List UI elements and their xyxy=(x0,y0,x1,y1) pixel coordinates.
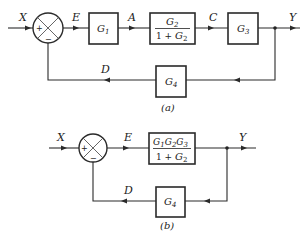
signal-d-label: D xyxy=(123,184,133,197)
plus-sign: + xyxy=(81,144,88,153)
diagram-b: X + − E G1G2G3 1 + G2 Y G4 D (b) xyxy=(49,131,256,231)
summing-junction-b: + − xyxy=(79,134,107,163)
signal-y-label: Y xyxy=(289,11,298,24)
signal-e-label: E xyxy=(123,131,132,144)
arrow-icon xyxy=(208,26,214,31)
arrow-icon xyxy=(123,146,129,151)
arrow-icon xyxy=(290,26,296,31)
arrow-icon xyxy=(25,26,31,31)
caption-b: (b) xyxy=(160,220,174,231)
arrow-icon xyxy=(234,78,240,83)
arrow-icon xyxy=(61,146,67,151)
signal-x-label: X xyxy=(18,11,28,24)
plus-sign: + xyxy=(36,24,43,33)
signal-y-label: Y xyxy=(239,131,248,144)
minus-sign: − xyxy=(90,154,97,163)
summing-junction-a: + − xyxy=(33,13,63,44)
arrow-icon xyxy=(104,78,110,83)
arrow-icon xyxy=(121,199,127,204)
signal-x-label: X xyxy=(56,131,66,144)
arrow-icon xyxy=(129,26,135,31)
arrow-icon xyxy=(73,26,79,31)
arrow-icon xyxy=(204,199,210,204)
caption-a: (a) xyxy=(161,102,175,113)
signal-a-label: A xyxy=(127,11,136,24)
block-diagrams: X + − E G1 A G2 1 + G2 C G3 xyxy=(0,0,306,232)
signal-c-label: C xyxy=(209,11,218,24)
diagram-a: X + − E G1 A G2 1 + G2 C G3 xyxy=(8,11,300,113)
minus-sign: − xyxy=(45,35,52,44)
arrow-icon xyxy=(241,146,247,151)
signal-e-label: E xyxy=(71,11,80,24)
signal-d-label: D xyxy=(100,63,110,76)
